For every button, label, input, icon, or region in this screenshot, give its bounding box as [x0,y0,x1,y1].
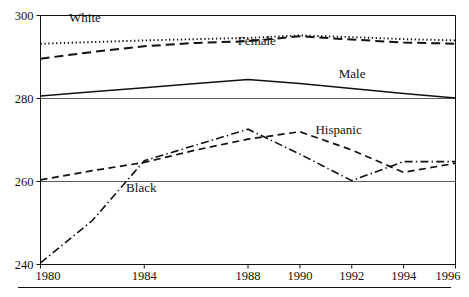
axis-ticks [37,16,456,269]
x-tick-label-1990: 1990 [287,269,312,283]
line-chart-figure: 240260280300 198019841988199019921994199… [0,0,469,297]
series-label-white: White [69,10,101,25]
x-tick-label-1980: 1980 [36,269,61,283]
chart-canvas: 240260280300 198019841988199019921994199… [0,0,469,297]
series-line-hispanic [41,132,456,180]
series-label-female: Female [238,33,276,48]
data-series-group [41,35,456,262]
series-line-black [41,129,456,263]
x-tick-label-1984: 1984 [132,269,158,283]
x-tick-label-1996: 1996 [436,269,461,283]
y-tick-label-260: 260 [15,175,34,189]
series-line-male [41,79,456,98]
y-tick-label-280: 280 [15,92,34,106]
series-label-black: Black [126,180,157,195]
y-axis-tick-labels: 240260280300 [15,9,34,272]
series-label-male: Male [339,66,366,81]
x-tick-label-1994: 1994 [391,269,417,283]
x-tick-label-1988: 1988 [236,269,261,283]
series-label-hispanic: Hispanic [315,122,361,137]
x-tick-label-1992: 1992 [339,269,364,283]
x-axis-tick-labels: 1980198419881990199219941996 [36,269,461,283]
y-tick-label-240: 240 [15,258,34,272]
y-tick-label-300: 300 [15,9,34,23]
